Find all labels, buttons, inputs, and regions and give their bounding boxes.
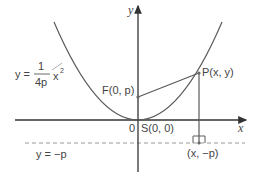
focus-to-point-line — [138, 73, 199, 97]
x-axis-label: x — [237, 121, 244, 135]
equation-numerator: 1 — [38, 60, 44, 72]
equation-variable: x — [53, 70, 59, 82]
focus-dot — [136, 95, 139, 98]
point-p-dot — [197, 71, 200, 74]
directrix-label: y = −p — [36, 148, 67, 160]
point-p-label: P(x, y) — [202, 66, 234, 78]
equation-lhs: y = — [15, 68, 30, 80]
parabola-diagram: y x 0 S(0, 0) F(0, p) P(x, y) (x, −p) y … — [0, 0, 260, 179]
vertex-label: S(0, 0) — [141, 122, 174, 134]
y-axis-label: y — [127, 3, 134, 17]
foot-dot — [197, 141, 200, 144]
equation-exponent: 2 — [60, 67, 64, 74]
focus-label: F(0, p) — [102, 84, 134, 96]
foot-label: (x, −p) — [187, 147, 218, 159]
origin-label: 0 — [129, 122, 135, 134]
equation-denominator: 4p — [35, 76, 47, 88]
diagram-svg: y x 0 S(0, 0) F(0, p) P(x, y) (x, −p) y … — [0, 0, 260, 179]
